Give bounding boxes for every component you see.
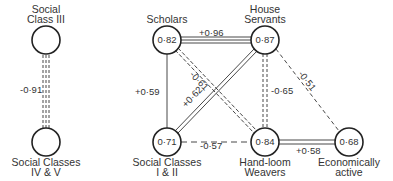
label-line: I & II xyxy=(127,167,207,177)
edge-scholars-handloom xyxy=(175,48,257,133)
node-econ-label: Economically active xyxy=(314,157,384,177)
node-scholars-label: Scholars xyxy=(137,14,197,24)
edge-scholars-sc12-value: +0·59 xyxy=(135,87,160,97)
edge-sc3-sc45-value: -0·91 xyxy=(20,85,42,95)
edge-house-handloom-value: -0·65 xyxy=(271,86,293,96)
edge-sc12-handloom-value: -0·57 xyxy=(200,141,222,151)
node-sc3 xyxy=(32,26,60,54)
edge-handloom-econ-value: +0·58 xyxy=(296,146,321,156)
node-handloom-label: Hand-loom Weavers xyxy=(235,157,295,177)
label-line: Weavers xyxy=(235,167,295,177)
label-line: Servants xyxy=(235,14,295,24)
node-scholars-value: 0·82 xyxy=(153,35,181,45)
edge-sc12-house xyxy=(175,49,257,133)
node-sc3-label: Social Class III xyxy=(16,4,76,24)
node-handloom-value: 0·84 xyxy=(251,137,279,147)
node-sc45-label: Social Classes IV & V xyxy=(6,157,86,177)
node-sc12-value: 0·71 xyxy=(153,137,181,147)
edge-scholars-house-value: +0·96 xyxy=(199,28,224,38)
edge-handloom-econ xyxy=(279,140,335,144)
label-line: active xyxy=(314,167,384,177)
label-line: IV & V xyxy=(6,167,86,177)
node-econ-value: 0·68 xyxy=(335,137,363,147)
edge-house-handloom xyxy=(263,54,267,128)
node-house-value: 0·87 xyxy=(251,35,279,45)
node-sc12-label: Social Classes I & II xyxy=(127,157,207,177)
edge-sc3-sc45 xyxy=(43,55,49,128)
node-house-label: House Servants xyxy=(235,4,295,24)
label-line: Class III xyxy=(16,14,76,24)
node-sc45 xyxy=(32,128,60,156)
